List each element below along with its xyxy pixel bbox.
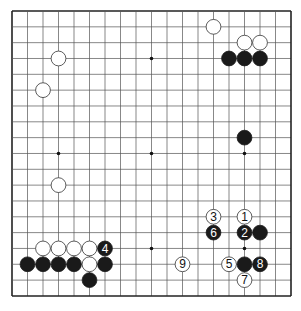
stone-circle — [237, 257, 252, 272]
black-stone[interactable] — [237, 51, 252, 66]
stone-circle — [36, 83, 51, 98]
go-board: 431629587 — [0, 0, 301, 311]
stone-circle — [237, 130, 252, 145]
move-number: 8 — [257, 257, 264, 271]
stone-circle — [51, 51, 66, 66]
stone-circle — [253, 35, 268, 50]
white-stone[interactable] — [36, 83, 51, 98]
stone-circle — [98, 257, 113, 272]
black-stone-4[interactable]: 4 — [98, 241, 113, 256]
black-stone[interactable] — [20, 257, 35, 272]
white-stone-9[interactable]: 9 — [175, 257, 190, 272]
black-stone[interactable] — [98, 257, 113, 272]
black-stone[interactable] — [67, 257, 82, 272]
white-stone[interactable] — [51, 51, 66, 66]
black-stone[interactable] — [253, 51, 268, 66]
stone-circle — [51, 178, 66, 193]
white-stone-5[interactable]: 5 — [222, 257, 237, 272]
white-stone[interactable] — [51, 241, 66, 256]
black-stone[interactable] — [222, 51, 237, 66]
black-stone[interactable] — [253, 225, 268, 240]
move-number: 5 — [226, 257, 233, 271]
black-stone[interactable] — [237, 130, 252, 145]
star-point — [150, 247, 154, 251]
stone-circle — [253, 225, 268, 240]
white-stone[interactable] — [51, 178, 66, 193]
move-number: 7 — [241, 273, 248, 287]
stone-circle — [20, 257, 35, 272]
stone-circle — [237, 51, 252, 66]
stone-circle — [67, 241, 82, 256]
stone-circle — [82, 241, 97, 256]
black-stone-8[interactable]: 8 — [253, 257, 268, 272]
stone-circle — [237, 35, 252, 50]
stone-circle — [82, 273, 97, 288]
stone-circle — [51, 241, 66, 256]
move-number: 2 — [241, 226, 248, 240]
white-stone[interactable] — [253, 35, 268, 50]
black-stone[interactable] — [237, 257, 252, 272]
white-stone[interactable] — [206, 19, 221, 34]
move-number: 6 — [210, 226, 217, 240]
stone-circle — [36, 257, 51, 272]
stone-circle — [36, 241, 51, 256]
stone-circle — [67, 257, 82, 272]
black-stone[interactable] — [82, 273, 97, 288]
move-number: 9 — [179, 257, 186, 271]
black-stone[interactable] — [51, 257, 66, 272]
stone-circle — [206, 19, 221, 34]
move-number: 3 — [210, 210, 217, 224]
star-point — [243, 247, 247, 251]
move-number: 4 — [102, 242, 109, 256]
white-stone[interactable] — [36, 241, 51, 256]
white-stone[interactable] — [82, 241, 97, 256]
star-point — [243, 152, 247, 156]
stone-circle — [82, 257, 97, 272]
star-point — [57, 152, 61, 156]
stone-circle — [253, 51, 268, 66]
white-stone-1[interactable]: 1 — [237, 209, 252, 224]
white-stone-3[interactable]: 3 — [206, 209, 221, 224]
white-stone[interactable] — [82, 257, 97, 272]
star-point — [150, 57, 154, 61]
move-number: 1 — [241, 210, 248, 224]
white-stone[interactable] — [67, 241, 82, 256]
white-stone-7[interactable]: 7 — [237, 273, 252, 288]
star-point — [150, 152, 154, 156]
stone-circle — [222, 51, 237, 66]
white-stone[interactable] — [237, 35, 252, 50]
black-stone[interactable] — [36, 257, 51, 272]
stone-circle — [51, 257, 66, 272]
black-stone-2[interactable]: 2 — [237, 225, 252, 240]
black-stone-6[interactable]: 6 — [206, 225, 221, 240]
